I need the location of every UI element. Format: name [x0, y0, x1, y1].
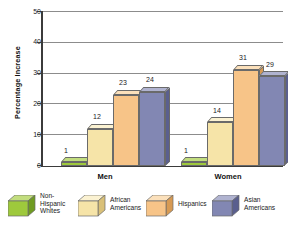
bar-front-face [139, 92, 165, 166]
bar-value-men-african-americans: 12 [84, 113, 110, 120]
legend-label-non-hispanic-whites: Non- Hispanic Whites [40, 192, 65, 215]
bar-value-women-non-hispanic-whites: 1 [173, 147, 199, 154]
group-label-men: Men [85, 172, 125, 181]
bar-chart: Percentage Increase 50 40 30 20 10 0 1 [0, 0, 288, 226]
legend-label-line2: Americans [110, 204, 141, 212]
legend-label-line1: Hispanics [178, 200, 207, 208]
legend-label-line1: African [110, 196, 141, 204]
bar-side-face [285, 72, 288, 166]
bar-women-hispanics [233, 70, 259, 166]
legend-swatch-blue-cube [212, 195, 240, 217]
bar-women-asian-americans [259, 76, 285, 165]
group-label-women: Women [204, 172, 252, 181]
legend-label-african-americans: African Americans [110, 196, 141, 211]
legend-swatch-peach-cube [146, 195, 174, 217]
gridline-50 [41, 11, 283, 12]
bar-front-face [233, 70, 259, 166]
plot-area: 1 12 23 24 1 [41, 11, 283, 167]
bar-value-men-asian-americans: 24 [137, 76, 163, 83]
legend-item-asian-americans[interactable]: Asian Americans [212, 188, 284, 226]
legend-label-line3: Whites [40, 207, 65, 215]
legend-label-hispanics: Hispanics [178, 200, 207, 208]
legend: Non- Hispanic Whites African Americans [0, 188, 288, 226]
gridline-40 [41, 42, 283, 43]
legend-item-hispanics[interactable]: Hispanics [146, 188, 206, 226]
legend-label-line1: Asian [244, 196, 275, 204]
y-axis-line [41, 11, 43, 167]
bar-value-men-hispanics: 23 [110, 79, 136, 86]
legend-label-asian-americans: Asian Americans [244, 196, 275, 211]
bar-men-asian-americans [139, 92, 165, 166]
legend-swatch-cream-cube [78, 195, 106, 217]
legend-item-non-hispanic-whites[interactable]: Non- Hispanic Whites [8, 188, 74, 226]
y-axis-title: Percentage Increase [13, 33, 22, 133]
bar-value-men-non-hispanic-whites: 1 [53, 147, 79, 154]
bar-value-women-african-americans: 14 [204, 107, 230, 114]
bar-front-face [87, 129, 113, 166]
legend-label-line2: Americans [244, 204, 275, 212]
legend-label-line1: Non- [40, 192, 65, 200]
x-axis-line [41, 166, 283, 167]
bar-value-women-hispanics: 31 [230, 54, 256, 61]
bar-women-african-americans [207, 122, 233, 165]
legend-label-line2: Hispanic [40, 200, 65, 208]
bar-front-face [207, 122, 233, 165]
bar-men-african-americans [87, 129, 113, 166]
bar-value-women-asian-americans: 29 [257, 61, 283, 68]
bar-front-face [259, 76, 285, 165]
bar-side-face [165, 87, 170, 166]
bar-men-hispanics [113, 95, 139, 166]
legend-item-african-americans[interactable]: African Americans [78, 188, 142, 226]
bar-front-face [113, 95, 139, 166]
legend-swatch-green-cube [8, 195, 36, 217]
